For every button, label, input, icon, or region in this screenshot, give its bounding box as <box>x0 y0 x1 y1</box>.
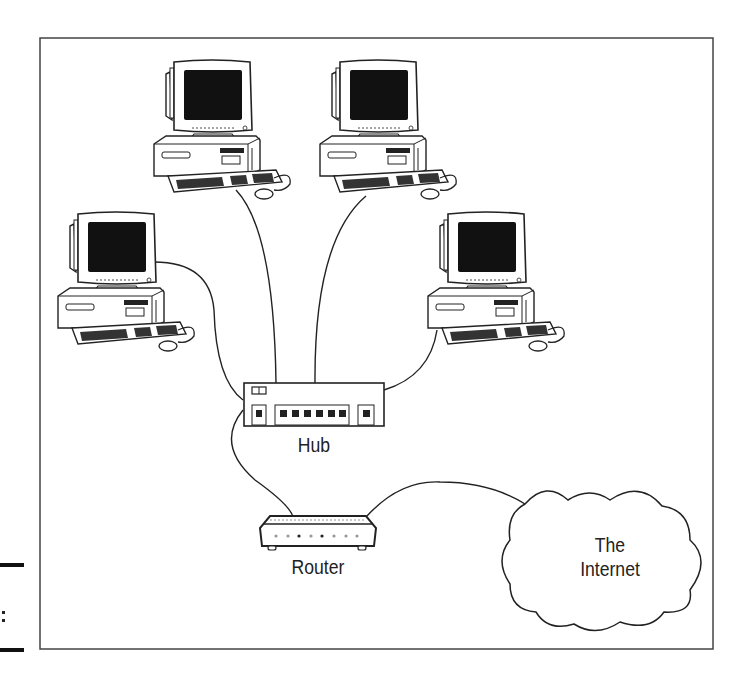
router-device <box>260 516 376 550</box>
router-label: Router <box>274 556 362 578</box>
cable-pc2-hub <box>315 196 366 383</box>
computer-top-left <box>154 60 290 199</box>
computer-right <box>428 212 564 351</box>
internet-label-line1: The <box>566 534 654 556</box>
computer-top-right <box>320 60 456 199</box>
hub-device <box>244 383 384 426</box>
cable-pc4-hub <box>384 330 437 390</box>
network-diagram: Hub Router The Internet <box>0 0 746 679</box>
cable-router-internet <box>367 482 525 516</box>
hub-label: Hub <box>279 434 349 456</box>
cable-pc1-hub <box>236 190 276 383</box>
computer-left <box>58 212 194 351</box>
internet-label-line2: Internet <box>557 558 663 580</box>
